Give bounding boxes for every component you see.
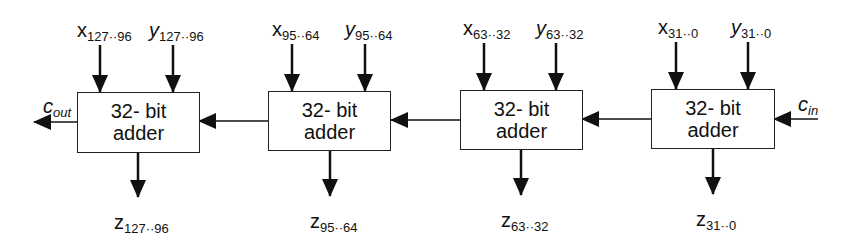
label-x-31-0: x31··0 bbox=[658, 17, 698, 40]
adder-block-3: 32- bit adder bbox=[460, 90, 583, 150]
label-x-127-96: x127··96 bbox=[77, 20, 132, 43]
adder-3-line2: adder bbox=[461, 120, 582, 142]
adder-block-1: 32- bit adder bbox=[77, 92, 200, 153]
label-x-95-64: x95··64 bbox=[272, 19, 320, 42]
label-z-31-0: z31··0 bbox=[696, 209, 736, 232]
label-x-63-32: x63··32 bbox=[463, 18, 511, 41]
label-y-63-32: y63··32 bbox=[536, 18, 584, 41]
label-z-63-32: z63··32 bbox=[501, 210, 549, 233]
adder-2-line2: adder bbox=[269, 121, 390, 143]
label-z-127-96: z127··96 bbox=[114, 212, 169, 235]
adder-2-line1: 32- bit bbox=[269, 99, 390, 121]
adder-1-line1: 32- bit bbox=[78, 100, 199, 122]
label-y-127-96: y127··96 bbox=[149, 20, 204, 43]
adder-block-2: 32- bit adder bbox=[268, 91, 391, 151]
label-carry-in: cin bbox=[798, 94, 818, 117]
label-y-31-0: y31··0 bbox=[731, 17, 771, 40]
adder-3-line1: 32- bit bbox=[461, 98, 582, 120]
label-z-95-64: z95··64 bbox=[310, 211, 358, 234]
label-y-95-64: y95··64 bbox=[345, 19, 393, 42]
adder-4-line1: 32- bit bbox=[652, 97, 774, 119]
adder-4-line2: adder bbox=[652, 119, 774, 141]
adder-1-line2: adder bbox=[78, 122, 199, 144]
adder-block-4: 32- bit adder bbox=[651, 89, 775, 149]
label-carry-out: cout bbox=[43, 96, 71, 119]
